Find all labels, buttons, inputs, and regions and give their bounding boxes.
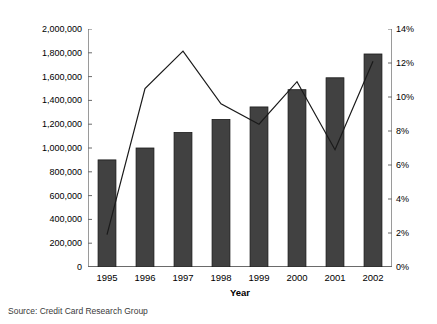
x-axis-title: Year <box>88 287 392 298</box>
bar <box>136 148 154 267</box>
x-axis-tick-label: 1996 <box>126 271 164 284</box>
plot-area <box>88 29 392 267</box>
y-axis-right-tick-label: 12% <box>396 57 414 69</box>
y-axis-right-tick-label: 10% <box>396 91 414 103</box>
x-axis-tick-labels: 19951996199719981999200020012002 <box>88 271 392 285</box>
y-axis-left-tick-label: 1,200,000 <box>42 118 82 130</box>
x-axis-tick-label: 2001 <box>316 271 354 284</box>
x-axis-tick-label: 1998 <box>202 271 240 284</box>
y-axis-right-tick-label: 8% <box>396 125 409 137</box>
y-axis-left-tick-label: 0 <box>77 261 82 273</box>
x-axis-tick-label: 1997 <box>164 271 202 284</box>
y-axis-left-tick-label: 1,400,000 <box>42 94 82 106</box>
y-axis-left-tick-label: 1,000,000 <box>42 142 82 154</box>
y-axis-left-tick-label: 200,000 <box>49 237 82 249</box>
y-axis-right-tick-label: 2% <box>396 227 409 239</box>
source-note: Source: Credit Card Research Group <box>8 306 148 316</box>
bar <box>288 90 306 267</box>
axis-lines <box>88 29 392 267</box>
plot-svg <box>88 29 392 267</box>
y-axis-right-tick-label: 6% <box>396 159 409 171</box>
bar <box>212 119 230 267</box>
y-axis-left-tick-label: 1,600,000 <box>42 71 82 83</box>
bar-series <box>98 54 382 267</box>
bar <box>250 107 268 267</box>
y-axis-right-tick-label: 0% <box>396 261 409 273</box>
bar <box>98 160 116 267</box>
y-axis-left-tick-label: 400,000 <box>49 213 82 225</box>
bar <box>326 78 344 267</box>
x-axis-tick-label: 1999 <box>240 271 278 284</box>
x-axis-tick-label: 2002 <box>354 271 392 284</box>
bar <box>174 133 192 267</box>
y-axis-left-tick-label: 2,000,000 <box>42 23 82 35</box>
x-axis-tick-label: 2000 <box>278 271 316 284</box>
transactions-chart-figure: Transactions (000s) 2,000,0001,800,0001,… <box>0 0 437 324</box>
y-axis-right-tick-label: 4% <box>396 193 409 205</box>
y-axis-left-tick-label: 600,000 <box>49 190 82 202</box>
y-axis-left-tick-label: 800,000 <box>49 166 82 178</box>
bar <box>364 54 382 267</box>
y-axis-left-tick-label: 1,800,000 <box>42 47 82 59</box>
x-axis-tick-label: 1995 <box>88 271 126 284</box>
y-axis-right-tick-label: 14% <box>396 23 414 35</box>
